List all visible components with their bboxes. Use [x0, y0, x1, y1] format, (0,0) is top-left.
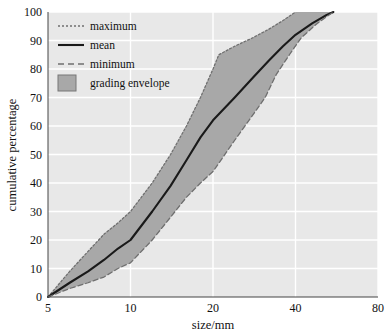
y-tick-label: 80 [30, 62, 42, 76]
x-tick-label: 20 [207, 301, 219, 315]
legend-label: minimum [90, 58, 135, 70]
x-tick-label: 40 [290, 301, 302, 315]
y-tick-label: 30 [30, 205, 42, 219]
legend-label: grading envelope [90, 77, 170, 90]
y-tick-label: 100 [24, 5, 42, 19]
y-tick-label: 70 [30, 91, 42, 105]
y-tick-label: 60 [30, 119, 42, 133]
x-axis-title: size/mm [192, 318, 235, 332]
legend-item-grading-envelope: grading envelope [58, 75, 170, 91]
legend-label: maximum [90, 20, 137, 32]
x-tick-label: 80 [372, 301, 384, 315]
y-tick-label: 20 [30, 233, 42, 247]
chart-figure: 510204080 0102030405060708090100 maximum… [0, 0, 392, 334]
x-tick-label: 5 [45, 301, 51, 315]
grading-envelope-chart: 510204080 0102030405060708090100 maximum… [0, 0, 392, 334]
y-tick-label: 0 [36, 290, 42, 304]
y-tick-label: 90 [30, 34, 42, 48]
y-tick-label: 10 [30, 262, 42, 276]
y-tick-label: 50 [30, 148, 42, 162]
legend-label: mean [90, 39, 115, 51]
y-axis-title: cumulative percentage [5, 98, 19, 211]
x-tick-label: 10 [125, 301, 137, 315]
y-tick-label: 40 [30, 176, 42, 190]
